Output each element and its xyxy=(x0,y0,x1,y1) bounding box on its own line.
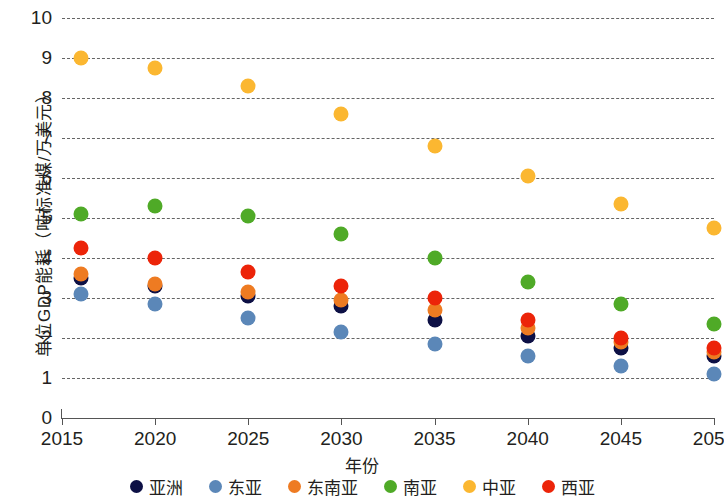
data-point xyxy=(241,79,256,94)
legend: 亚洲东亚东南亚南亚中亚西亚 xyxy=(0,474,724,498)
data-point xyxy=(334,279,349,294)
legend-marker-icon xyxy=(542,480,555,493)
data-point xyxy=(148,297,163,312)
legend-label: 东亚 xyxy=(228,474,262,498)
legend-item-东南亚[interactable]: 东南亚 xyxy=(288,474,358,498)
data-point xyxy=(520,169,535,184)
legend-label: 南亚 xyxy=(403,474,437,498)
legend-marker-icon xyxy=(463,480,476,493)
gridline xyxy=(62,218,714,219)
x-axis-tick-label: 2015 xyxy=(27,428,97,450)
x-axis-tick-mark xyxy=(621,418,622,425)
legend-marker-icon xyxy=(384,480,397,493)
data-point xyxy=(148,199,163,214)
gridline xyxy=(62,138,714,139)
y-axis-tick-label: 7 xyxy=(12,127,52,149)
scatter-chart: 单位GDP能耗（吨标准煤/万美元） 012345678910 201520202… xyxy=(0,0,724,498)
x-axis-tick-label: 2030 xyxy=(306,428,376,450)
gridline xyxy=(62,178,714,179)
gridline xyxy=(62,18,714,19)
legend-item-东亚[interactable]: 东亚 xyxy=(209,474,262,498)
y-axis-tick-label: 6 xyxy=(12,167,52,189)
x-axis-tick-label: 2020 xyxy=(120,428,190,450)
gridline xyxy=(62,378,714,379)
data-point xyxy=(613,297,628,312)
data-point xyxy=(334,293,349,308)
data-point xyxy=(73,207,88,222)
data-point xyxy=(334,325,349,340)
y-axis-tick-label: 8 xyxy=(12,87,52,109)
x-axis-tick-label: 2035 xyxy=(400,428,470,450)
data-point xyxy=(73,267,88,282)
data-point xyxy=(613,359,628,374)
y-axis-tick-label: 10 xyxy=(12,7,52,29)
x-axis-tick-label: 2045 xyxy=(586,428,656,450)
data-point xyxy=(73,241,88,256)
plot-area xyxy=(62,18,714,418)
legend-item-亚洲[interactable]: 亚洲 xyxy=(130,474,183,498)
x-axis-tick-mark xyxy=(155,418,156,425)
data-point xyxy=(427,139,442,154)
y-axis-tick-label: 4 xyxy=(12,247,52,269)
gridline xyxy=(62,98,714,99)
y-axis-tick-labels: 012345678910 xyxy=(8,18,52,418)
y-axis-tick-label: 3 xyxy=(12,287,52,309)
data-point xyxy=(707,317,722,332)
legend-marker-icon xyxy=(288,480,301,493)
data-point xyxy=(148,277,163,292)
data-point xyxy=(427,291,442,306)
data-point xyxy=(73,287,88,302)
x-axis-tick-mark xyxy=(341,418,342,425)
data-point xyxy=(427,337,442,352)
y-axis-tick-label: 5 xyxy=(12,207,52,229)
gridline xyxy=(62,58,714,59)
x-axis-tick-mark xyxy=(62,418,63,425)
legend-label: 亚洲 xyxy=(149,474,183,498)
data-point xyxy=(241,311,256,326)
x-axis-tick-label: 2050 xyxy=(679,428,724,450)
x-axis-tick-label: 2025 xyxy=(213,428,283,450)
legend-label: 中亚 xyxy=(482,474,516,498)
data-point xyxy=(427,251,442,266)
data-point xyxy=(707,367,722,382)
y-axis-tick-label: 0 xyxy=(12,407,52,429)
data-point xyxy=(241,265,256,280)
x-axis-line xyxy=(62,418,715,419)
data-point xyxy=(148,251,163,266)
data-point xyxy=(241,209,256,224)
data-point xyxy=(613,197,628,212)
data-point xyxy=(613,331,628,346)
legend-item-中亚[interactable]: 中亚 xyxy=(463,474,516,498)
x-axis-tick-mark xyxy=(248,418,249,425)
legend-marker-icon xyxy=(130,480,143,493)
data-point xyxy=(520,349,535,364)
data-point xyxy=(334,227,349,242)
data-point xyxy=(73,51,88,66)
x-axis-tick-mark xyxy=(528,418,529,425)
data-point xyxy=(707,221,722,236)
data-point xyxy=(520,275,535,290)
legend-label: 东南亚 xyxy=(307,474,358,498)
y-axis-tick-label: 9 xyxy=(12,47,52,69)
x-axis-tick-label: 2040 xyxy=(493,428,563,450)
legend-marker-icon xyxy=(209,480,222,493)
data-point xyxy=(520,313,535,328)
y-axis-tick-label: 2 xyxy=(12,327,52,349)
legend-label: 西亚 xyxy=(561,474,595,498)
legend-item-南亚[interactable]: 南亚 xyxy=(384,474,437,498)
data-point xyxy=(334,107,349,122)
y-axis-tick-label: 1 xyxy=(12,367,52,389)
data-point xyxy=(241,285,256,300)
legend-item-西亚[interactable]: 西亚 xyxy=(542,474,595,498)
data-point xyxy=(707,341,722,356)
x-axis-tick-mark xyxy=(714,418,715,425)
x-axis-tick-mark xyxy=(435,418,436,425)
data-point xyxy=(148,61,163,76)
